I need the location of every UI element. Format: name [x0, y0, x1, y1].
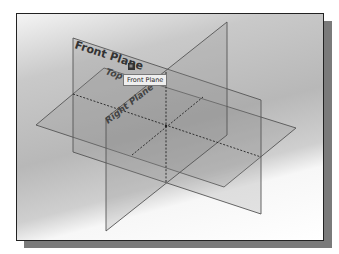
datum-planes-scene: Front Plane Top Right Plane [0, 0, 339, 254]
tooltip: Front Plane [123, 74, 167, 86]
origin-point [165, 125, 167, 127]
plane-cursor-icon [127, 62, 136, 71]
